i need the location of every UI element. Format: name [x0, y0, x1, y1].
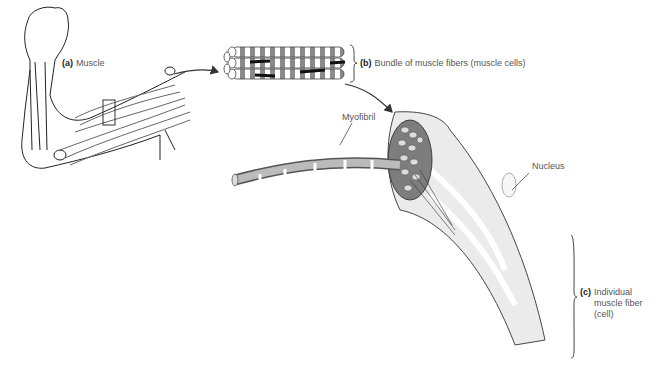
diagram-illustration [0, 0, 661, 371]
fiber-bundle-illustration [224, 47, 345, 79]
label-nucleus: Nucleus [532, 161, 565, 172]
myofibril-illustration [232, 160, 400, 186]
label-a-muscle: (a)Muscle [62, 58, 105, 69]
label-a-text: Muscle [76, 58, 105, 68]
muscle-fiber-illustration [388, 112, 545, 345]
label-c-line1: Individual [594, 287, 632, 297]
label-c-line3: (cell) [580, 309, 650, 320]
arm-illustration [22, 7, 190, 168]
label-b-text: Bundle of muscle fibers (muscle cells) [375, 58, 526, 68]
label-myofibril: Myofibril [342, 112, 376, 123]
label-b-bundle: (b)Bundle of muscle fibers (muscle cells… [360, 58, 526, 69]
label-a-letter: (a) [62, 58, 73, 68]
bracket-c [571, 235, 577, 358]
label-c-line2: muscle fiber [580, 298, 650, 309]
label-c-letter: (c) [580, 287, 591, 297]
nucleus-shape [502, 173, 516, 197]
arrow-b-to-c [345, 84, 392, 112]
myofibril-leader [340, 123, 352, 145]
arrow-a-to-b [174, 70, 218, 74]
label-b-letter: (b) [360, 58, 372, 68]
bracket-b [350, 45, 357, 82]
label-c-fiber: (c)Individual muscle fiber (cell) [580, 287, 650, 320]
muscle-structure-diagram: (a)Muscle (b)Bundle of muscle fibers (mu… [0, 0, 661, 371]
